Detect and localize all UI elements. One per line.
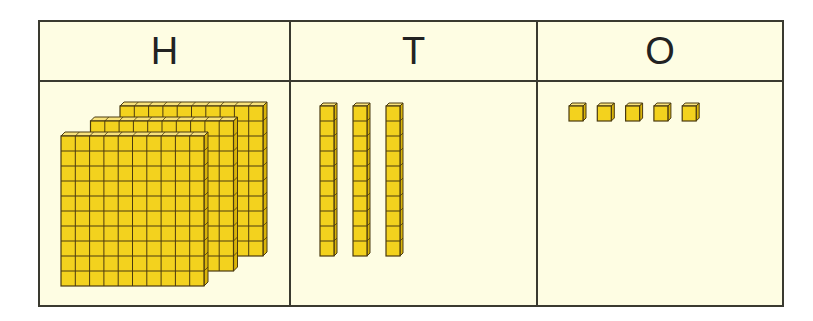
ten-rod	[353, 103, 370, 256]
unit-cube	[597, 103, 614, 121]
column-tens: T	[289, 22, 536, 305]
hundred-flats-group	[40, 82, 289, 307]
ten-rod	[320, 103, 337, 256]
unit-cube	[682, 103, 699, 121]
hundred-flat	[61, 132, 208, 286]
header-hundreds: H	[40, 22, 289, 82]
unit-cube	[654, 103, 671, 121]
unit-cubes-group	[538, 82, 784, 307]
tens-blocks-area	[291, 82, 536, 305]
unit-cube	[569, 103, 586, 121]
ten-rods-group	[291, 82, 538, 307]
column-ones: O	[536, 22, 782, 305]
column-hundreds: H	[40, 22, 289, 305]
ten-rod	[386, 103, 403, 256]
hundreds-blocks-area	[40, 82, 289, 305]
place-value-table: H T O	[38, 20, 784, 307]
unit-cube	[626, 103, 643, 121]
ones-blocks-area	[538, 82, 782, 305]
header-ones: O	[538, 22, 782, 82]
header-tens: T	[291, 22, 536, 82]
